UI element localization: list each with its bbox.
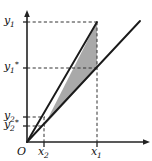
lower-ray-line [27, 21, 140, 142]
origin-label: O [17, 146, 26, 157]
x-axis-arrow-icon [143, 139, 150, 145]
axis-label-x2-subscript: 2 [44, 151, 49, 160]
axis-label-x1: x1 [91, 146, 102, 157]
axis-label-y1-star-superscript: * [15, 60, 19, 69]
axis-label-y1-star: y1* [4, 61, 19, 72]
axis-label-x1-subscript: 1 [97, 151, 102, 160]
shaded-region [44, 22, 97, 126]
axis-label-y1-star-subscript: 1 [10, 66, 15, 75]
y-axis-arrow-icon [24, 10, 30, 17]
axis-label-y2-star-superscript: * [15, 118, 19, 127]
axis-label-y1-subscript: 1 [10, 20, 15, 29]
axis-label-y2-star-subscript: 2 [10, 124, 15, 133]
upper-ray-line [27, 22, 97, 142]
diagram-canvas [0, 0, 152, 161]
math-diagram: y1 y1* y2 y2* O x2 x1 [0, 0, 152, 161]
axis-label-x2: x2 [38, 146, 49, 157]
axis-label-y2-star: y2* [4, 119, 19, 130]
axis-label-y1: y1 [4, 15, 15, 26]
